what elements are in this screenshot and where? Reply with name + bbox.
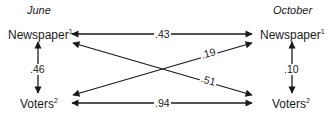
node-label: Newspaper <box>260 28 321 42</box>
coefficient-voters-voters: .94 <box>154 98 171 109</box>
node-june-newspaper: Newspaper1 <box>8 28 73 41</box>
period-label-june: June <box>27 5 51 16</box>
node-label: Newspaper <box>8 28 69 42</box>
coefficient-june-vertical: .46 <box>29 64 46 75</box>
node-october-newspaper: Newspaper1 <box>260 28 325 41</box>
node-label: Voters <box>20 97 54 111</box>
footnote-marker: 2 <box>306 97 310 104</box>
period-label-october: October <box>273 5 312 16</box>
footnote-marker: 2 <box>54 97 58 104</box>
footnote-marker: 1 <box>69 28 73 35</box>
node-june-voters: Voters2 <box>20 97 58 110</box>
node-october-voters: Voters2 <box>272 97 310 110</box>
footnote-marker: 1 <box>321 28 325 35</box>
node-label: Voters <box>272 97 306 111</box>
coefficient-october-vertical: .10 <box>283 64 300 75</box>
coefficient-newspaper-newspaper: .43 <box>154 29 171 40</box>
